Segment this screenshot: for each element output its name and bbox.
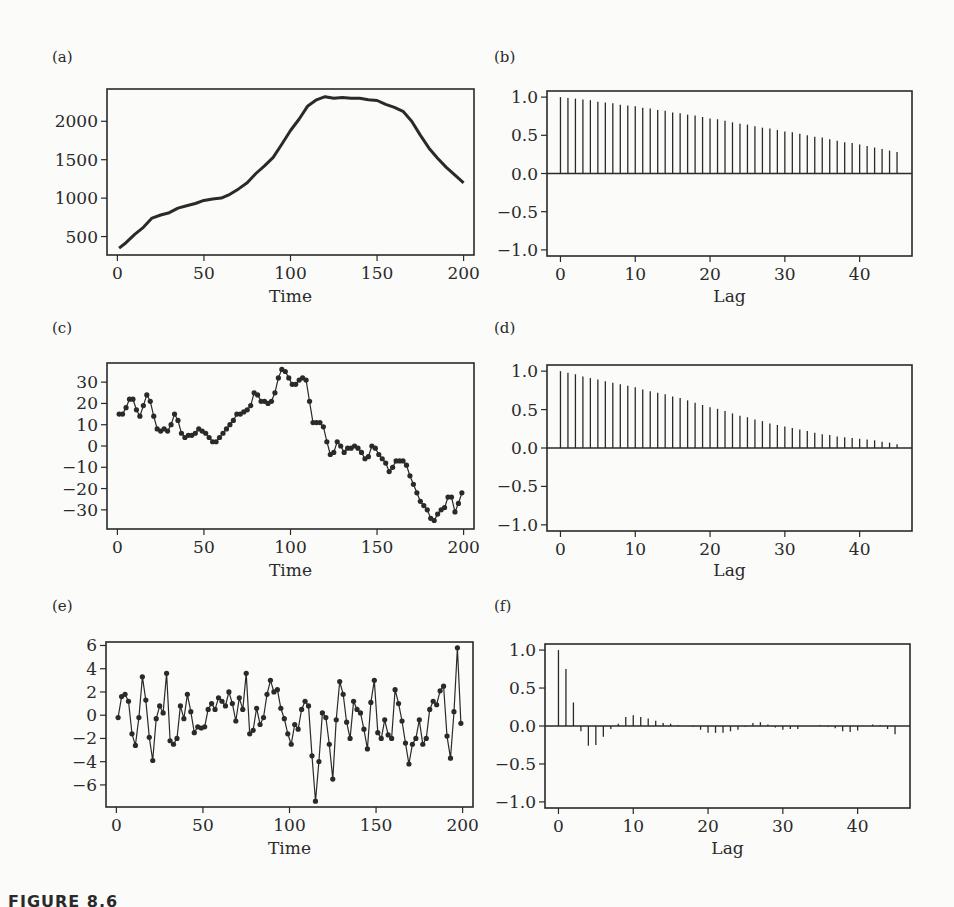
data-point <box>424 736 429 741</box>
data-point <box>220 431 225 436</box>
x-tick-label: 0 <box>555 539 566 559</box>
x-tick-label: 40 <box>849 539 871 559</box>
data-point <box>237 695 242 700</box>
data-point <box>458 721 463 726</box>
x-tick-label: 30 <box>774 264 796 284</box>
data-point <box>255 392 260 397</box>
series-line <box>118 648 461 801</box>
data-point <box>129 731 134 736</box>
data-point <box>387 469 392 474</box>
data-point <box>272 390 277 395</box>
data-point <box>227 422 232 427</box>
data-point <box>116 715 121 720</box>
plot-frame <box>107 89 474 255</box>
data-point <box>442 505 447 510</box>
data-point <box>327 742 332 747</box>
y-tick-label: 2 <box>86 682 97 702</box>
data-point <box>359 450 364 455</box>
plots-canvas: 500100015002000050100150200Time−1.0−0.50… <box>0 0 954 907</box>
data-point <box>178 703 183 708</box>
data-point <box>268 678 273 683</box>
y-tick-label: −0.5 <box>497 202 538 222</box>
data-point <box>376 452 381 457</box>
data-point <box>240 707 245 712</box>
y-tick-label: −6 <box>72 775 97 795</box>
data-point <box>219 699 224 704</box>
data-point <box>231 418 236 423</box>
x-axis-label: Time <box>269 286 312 306</box>
data-point <box>380 456 385 461</box>
data-point <box>226 689 231 694</box>
y-tick-label: −0.5 <box>497 476 538 496</box>
data-point <box>223 703 228 708</box>
data-point <box>286 375 291 380</box>
data-point <box>203 431 208 436</box>
data-point <box>296 727 301 732</box>
chart-panel-f: −1.0−0.50.00.51.0010203040Lag <box>495 640 910 858</box>
data-point <box>316 759 321 764</box>
y-tick-label: −30 <box>62 500 98 520</box>
data-point <box>230 701 235 706</box>
x-tick-label: 100 <box>274 537 306 557</box>
data-point <box>390 465 395 470</box>
y-tick-label: −1.0 <box>495 792 536 812</box>
data-point <box>323 715 328 720</box>
data-point <box>411 482 416 487</box>
data-point <box>275 687 280 692</box>
data-point <box>165 429 170 434</box>
data-point <box>392 687 397 692</box>
data-point <box>455 645 460 650</box>
data-point <box>122 692 127 697</box>
data-point <box>399 718 404 723</box>
data-point <box>410 742 415 747</box>
data-point <box>321 424 326 429</box>
x-tick-label: 20 <box>699 539 721 559</box>
data-point <box>379 736 384 741</box>
data-point <box>421 503 426 508</box>
data-point <box>375 730 380 735</box>
data-point <box>150 758 155 763</box>
x-tick-label: 100 <box>274 263 306 283</box>
data-point <box>251 728 256 733</box>
data-point <box>134 407 139 412</box>
y-tick-label: 1000 <box>55 188 98 208</box>
data-point <box>282 716 287 721</box>
y-tick-label: −10 <box>62 457 98 477</box>
data-point <box>233 718 238 723</box>
y-tick-label: 4 <box>86 659 97 679</box>
data-point <box>137 414 142 419</box>
chart-panel-d: −1.0−0.50.00.51.0010203040Lag <box>497 361 912 580</box>
data-point <box>141 403 146 408</box>
data-point <box>154 716 159 721</box>
data-point <box>254 706 259 711</box>
y-tick-label: 0.5 <box>511 125 538 145</box>
data-point <box>126 699 131 704</box>
data-point <box>400 458 405 463</box>
x-axis-label: Lag <box>713 286 745 306</box>
data-point <box>396 701 401 706</box>
data-point <box>434 702 439 707</box>
data-point <box>181 716 186 721</box>
x-tick-label: 40 <box>849 264 871 284</box>
x-tick-label: 50 <box>192 815 214 835</box>
y-tick-label: −0.5 <box>495 754 536 774</box>
data-point <box>161 710 166 715</box>
x-tick-label: 0 <box>553 816 564 836</box>
x-tick-label: 200 <box>447 537 479 557</box>
data-point <box>192 730 197 735</box>
data-point <box>342 450 347 455</box>
y-tick-label: 2000 <box>55 111 98 131</box>
x-tick-label: 0 <box>112 263 123 283</box>
x-tick-label: 0 <box>555 264 566 284</box>
data-point <box>347 736 352 741</box>
y-tick-label: 1.0 <box>511 87 538 107</box>
y-tick-label: −4 <box>72 752 97 772</box>
data-point <box>299 707 304 712</box>
data-point <box>337 679 342 684</box>
data-point <box>302 699 307 704</box>
data-point <box>136 715 141 720</box>
data-point <box>172 411 177 416</box>
data-point <box>140 674 145 679</box>
data-point <box>383 460 388 465</box>
x-tick-label: 50 <box>193 537 215 557</box>
